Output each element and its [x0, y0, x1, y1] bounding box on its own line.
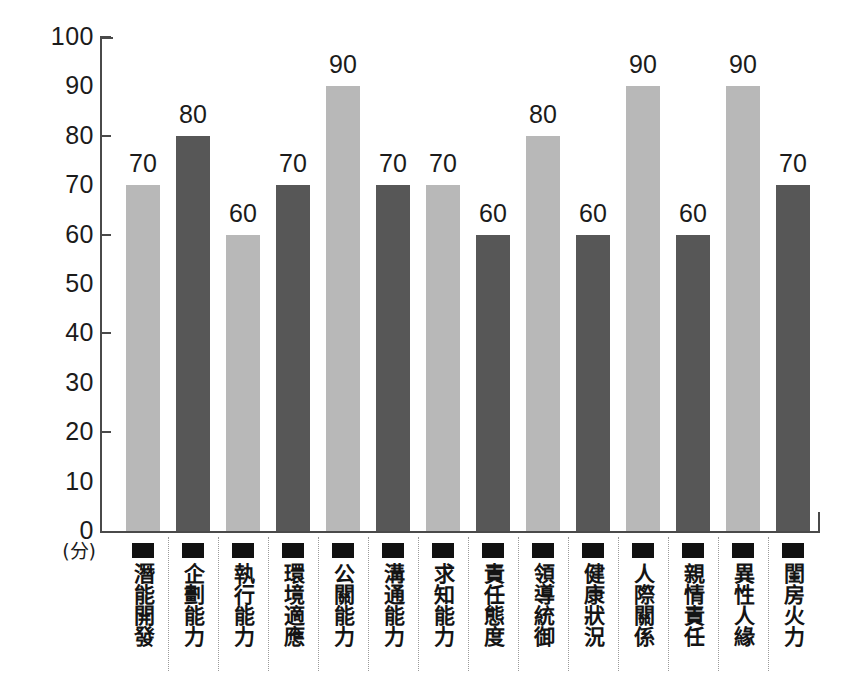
y-axis-tick-label: 20	[16, 419, 94, 444]
category-label-group: 環境適應	[268, 533, 318, 693]
category-separator	[268, 537, 269, 671]
category-marker-icon	[732, 543, 754, 558]
bar	[676, 235, 710, 531]
category-label-group: 溝通能力	[368, 533, 418, 693]
bar	[176, 136, 210, 531]
category-separator	[168, 537, 169, 671]
bar-value-label: 70	[113, 151, 173, 176]
y-axis-tick-mark	[100, 234, 111, 236]
category-marker-icon	[582, 543, 604, 558]
bar-value-label: 70	[263, 151, 323, 176]
category-label-text: 求知能力	[432, 563, 454, 647]
category-separator	[518, 537, 519, 671]
category-label-group: 領導統御	[518, 533, 568, 693]
y-axis-tick-label: 50	[16, 271, 94, 296]
category-label-text: 親情責任	[682, 563, 704, 647]
bar-value-label: 70	[763, 151, 823, 176]
category-separator	[718, 537, 719, 671]
category-label-text: 健康狀況	[582, 563, 604, 647]
category-separator	[468, 537, 469, 671]
bar-chart: 1009080706050403020100 (分) 潛能開發企劃能力執行能力環…	[0, 0, 864, 696]
category-label-group: 親情責任	[668, 533, 718, 693]
bar	[526, 136, 560, 531]
y-axis-labels: 1009080706050403020100	[0, 0, 94, 560]
category-label-text: 執行能力	[232, 563, 254, 647]
category-separator	[668, 537, 669, 671]
category-marker-icon	[232, 543, 254, 558]
category-label-text: 閨房火力	[782, 563, 804, 647]
y-axis-tick-label: 100	[16, 24, 94, 49]
category-label-group: 執行能力	[218, 533, 268, 693]
category-separator	[618, 537, 619, 671]
bar	[476, 235, 510, 531]
category-marker-icon	[682, 543, 704, 558]
category-label-group: 企劃能力	[168, 533, 218, 693]
y-axis-tick-label: 90	[16, 73, 94, 98]
category-marker-icon	[182, 543, 204, 558]
bar-value-label: 90	[613, 52, 673, 77]
bar	[626, 86, 660, 531]
category-marker-icon	[632, 543, 654, 558]
category-label-group: 人際關係	[618, 533, 668, 693]
category-separator	[368, 537, 369, 671]
category-marker-icon	[382, 543, 404, 558]
category-separator	[568, 537, 569, 671]
bar	[326, 86, 360, 531]
category-label-text: 責任態度	[482, 563, 504, 647]
category-label-text: 環境適應	[282, 563, 304, 647]
category-label-text: 公關能力	[332, 563, 354, 647]
bar	[126, 185, 160, 531]
category-label-text: 異性人緣	[732, 563, 754, 647]
y-axis-tick-label: 30	[16, 370, 94, 395]
category-label-text: 潛能開發	[132, 563, 154, 647]
category-separator	[418, 537, 419, 671]
category-label-group: 公關能力	[318, 533, 368, 693]
y-axis-tick-label: 10	[16, 469, 94, 494]
category-separator	[318, 537, 319, 671]
category-marker-icon	[132, 543, 154, 558]
category-separator	[768, 537, 769, 671]
y-axis-tick-mark	[100, 431, 111, 433]
bar-value-label: 60	[463, 201, 523, 226]
bar	[776, 185, 810, 531]
x-axis-right-end-tick	[818, 512, 820, 533]
category-marker-icon	[782, 543, 804, 558]
category-label-text: 企劃能力	[182, 563, 204, 647]
bar-value-label: 70	[413, 151, 473, 176]
bar	[276, 185, 310, 531]
category-marker-icon	[432, 543, 454, 558]
category-axis: 潛能開發企劃能力執行能力環境適應公關能力溝通能力求知能力責任態度領導統御健康狀況…	[100, 533, 820, 696]
y-axis-tick-label: 60	[16, 222, 94, 247]
category-label-group: 潛能開發	[118, 533, 168, 693]
bar-value-label: 90	[313, 52, 373, 77]
category-label-group: 健康狀況	[568, 533, 618, 693]
category-label-text: 領導統御	[532, 563, 554, 647]
y-axis-tick-mark	[100, 135, 111, 137]
bar-value-label: 60	[563, 201, 623, 226]
bar	[726, 86, 760, 531]
y-axis-tick-label: 40	[16, 320, 94, 345]
category-marker-icon	[332, 543, 354, 558]
category-label-group: 異性人緣	[718, 533, 768, 693]
bar-value-label: 60	[213, 201, 273, 226]
y-axis-tick-mark	[100, 36, 111, 38]
bar	[376, 185, 410, 531]
y-axis-unit-label: (分)	[18, 542, 96, 561]
y-axis-tick-label: 70	[16, 172, 94, 197]
category-label-text: 溝通能力	[382, 563, 404, 647]
bar	[576, 235, 610, 531]
bar-value-label: 80	[513, 102, 573, 127]
category-label-text: 人際關係	[632, 563, 654, 647]
bar-value-label: 60	[663, 201, 723, 226]
category-label-group: 求知能力	[418, 533, 468, 693]
bar-value-label: 80	[163, 102, 223, 127]
category-separator	[218, 537, 219, 671]
bar-value-label: 90	[713, 52, 773, 77]
category-marker-icon	[482, 543, 504, 558]
y-axis-tick-label: 80	[16, 123, 94, 148]
bar	[426, 185, 460, 531]
category-marker-icon	[282, 543, 304, 558]
bar	[226, 235, 260, 531]
category-label-group: 責任態度	[468, 533, 518, 693]
category-label-group: 閨房火力	[768, 533, 818, 693]
